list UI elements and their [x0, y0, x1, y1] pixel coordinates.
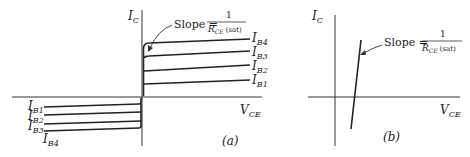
curve-ib3-reverse [44, 121, 141, 124]
panel-b-saturation-line [351, 40, 361, 129]
panel-b-tag: (b) [383, 130, 400, 144]
curve-ib4-reverse [44, 104, 141, 131]
curve-ib2-reverse [44, 112, 141, 115]
panel-a-x-axis-label: VCE [240, 103, 261, 119]
slope-denominator-b: RCE(sat) [421, 43, 456, 54]
label-ib1-right: IB1 [251, 73, 268, 89]
panel-a-right-curves [144, 39, 251, 96]
curve-ib3-forward [144, 51, 250, 58]
panel-a-tag: (a) [222, 134, 239, 148]
slope-numerator-b: 1 [440, 29, 446, 39]
slope-leader-arrow [150, 25, 172, 48]
panel-b-y-axis-label: IC [311, 9, 323, 25]
panel-b-x-axis-label: VCE [440, 103, 461, 119]
panel-a-slope-annotation: Slope = 1 RCE(sat) [148, 10, 246, 52]
arrow-head-icon-b [360, 50, 366, 55]
transistor-characteristics-diagram: IC VCE IB4 IB3 IB2 IB1 IB1 IB2 IB3 IB4 S… [0, 0, 470, 157]
panel-a-left-curves [44, 98, 141, 131]
slope-denominator: RCE(sat) [207, 24, 242, 35]
panel-b-slope-annotation: Slope = 1 RCE(sat) [360, 29, 462, 55]
panel-a-y-axis-label: IC [127, 9, 139, 25]
curve-ib2-forward [144, 65, 250, 71]
curve-ib1-reverse [44, 98, 141, 107]
panel-a-right-curve-labels: IB4 IB3 IB2 IB1 [251, 31, 268, 89]
curve-ib1-forward [144, 80, 250, 84]
label-ib4-left: IB4 [42, 132, 59, 148]
slope-numerator: 1 [226, 10, 232, 20]
